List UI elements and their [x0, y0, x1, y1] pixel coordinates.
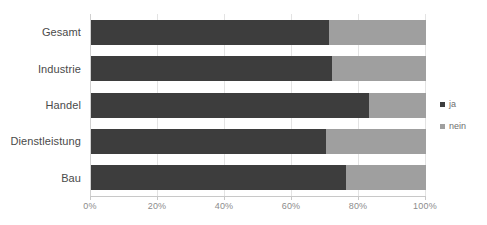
y-axis-category-labels: Gesamt Industrie Handel Dienstleistung B…	[0, 14, 86, 196]
x-tick-label-80: 80%	[336, 200, 380, 212]
bar-segment-nein[interactable]	[326, 129, 427, 154]
category-label-dienstleistung: Dienstleistung	[11, 134, 82, 148]
bar-segment-ja[interactable]	[91, 165, 346, 190]
bar-row	[91, 129, 426, 154]
legend-item-ja[interactable]: ja	[440, 96, 487, 112]
x-axis-line	[90, 196, 425, 197]
bar-row	[91, 56, 426, 81]
bar-segment-ja[interactable]	[91, 93, 369, 118]
square-marker-dark-icon	[440, 102, 445, 107]
bar-segment-nein[interactable]	[346, 165, 426, 190]
x-tick-label-40: 40%	[202, 200, 246, 212]
bar-row	[91, 93, 426, 118]
chart-legend: ja nein	[440, 96, 487, 140]
square-marker-gray-icon	[440, 124, 445, 129]
bar-segment-nein[interactable]	[332, 56, 426, 81]
category-label-handel: Handel	[46, 98, 81, 112]
x-axis-tick-labels: 0%20%40%60%80%100%	[90, 200, 425, 216]
category-label-bau: Bau	[61, 171, 81, 185]
legend-label-ja: ja	[449, 99, 456, 109]
legend-item-nein[interactable]: nein	[440, 118, 487, 134]
bar-segment-ja[interactable]	[91, 129, 326, 154]
x-tick-label-0: 0%	[68, 200, 112, 212]
bar-segment-ja[interactable]	[91, 56, 332, 81]
bar-row	[91, 20, 426, 45]
bar-segment-ja[interactable]	[91, 20, 329, 45]
stacked-bar-chart: Gesamt Industrie Handel Dienstleistung B…	[0, 0, 487, 225]
bar-segment-nein[interactable]	[329, 20, 426, 45]
x-tick-label-20: 20%	[135, 200, 179, 212]
x-tick-label-100: 100%	[403, 200, 447, 212]
bar-segment-nein[interactable]	[369, 93, 426, 118]
x-tick-label-60: 60%	[269, 200, 313, 212]
category-label-gesamt: Gesamt	[42, 25, 81, 39]
legend-label-nein: nein	[449, 121, 466, 131]
category-label-industrie: Industrie	[38, 62, 81, 76]
bar-row	[91, 165, 426, 190]
plot-area	[90, 14, 425, 196]
